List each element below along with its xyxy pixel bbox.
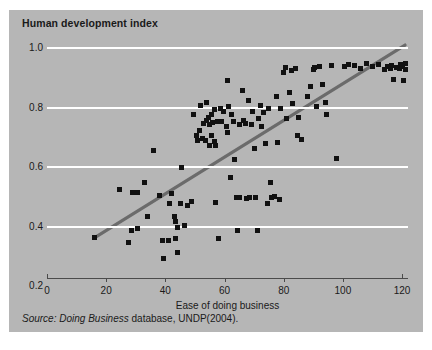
data-point bbox=[142, 180, 147, 185]
x-axis-tick bbox=[284, 278, 285, 282]
data-point bbox=[129, 228, 134, 233]
data-point bbox=[225, 78, 230, 83]
x-axis-label: Ease of doing business bbox=[47, 300, 408, 311]
data-point bbox=[284, 116, 289, 121]
data-point bbox=[283, 65, 288, 70]
data-point bbox=[249, 122, 254, 127]
x-axis-tick bbox=[343, 278, 344, 282]
data-point bbox=[258, 103, 263, 108]
data-point bbox=[401, 78, 406, 83]
data-point bbox=[287, 90, 292, 95]
data-point bbox=[169, 191, 174, 196]
data-point bbox=[261, 110, 266, 115]
source-note: Source: Doing Business database, UNDP(20… bbox=[22, 313, 238, 324]
x-axis-tick bbox=[165, 278, 166, 282]
data-point bbox=[247, 195, 252, 200]
data-point bbox=[256, 116, 261, 121]
data-point bbox=[175, 250, 180, 255]
data-point bbox=[259, 124, 264, 129]
data-point bbox=[263, 141, 268, 146]
data-point bbox=[403, 61, 408, 66]
data-point bbox=[232, 157, 237, 162]
data-point bbox=[250, 109, 255, 114]
x-axis-tick bbox=[106, 278, 107, 282]
data-point bbox=[213, 200, 218, 205]
data-point bbox=[376, 62, 381, 67]
x-axis-tick-label: 60 bbox=[219, 285, 230, 296]
gridline bbox=[47, 166, 408, 168]
data-point bbox=[281, 70, 286, 75]
data-point bbox=[160, 238, 165, 243]
data-point bbox=[314, 104, 319, 109]
data-point bbox=[189, 199, 194, 204]
data-point bbox=[240, 88, 245, 93]
data-point bbox=[198, 103, 203, 108]
data-point bbox=[308, 84, 313, 89]
data-point bbox=[157, 193, 162, 198]
data-point bbox=[346, 62, 351, 67]
data-point bbox=[299, 137, 304, 142]
figure-container: Human development index 0.20.40.60.81.0 … bbox=[0, 0, 432, 350]
data-point bbox=[224, 124, 229, 129]
data-point bbox=[334, 156, 339, 161]
data-point bbox=[364, 61, 369, 66]
source-note-italic: Source: Doing Business bbox=[22, 313, 129, 324]
data-point bbox=[229, 112, 234, 117]
data-point bbox=[173, 219, 178, 224]
data-point bbox=[265, 201, 270, 206]
data-point bbox=[178, 201, 183, 206]
data-point bbox=[277, 197, 282, 202]
source-note-roman: database, UNDP(2004). bbox=[129, 313, 239, 324]
data-point bbox=[323, 100, 328, 105]
y-axis-tick-label: 1.0 bbox=[29, 43, 43, 53]
data-point bbox=[212, 107, 217, 112]
data-point bbox=[274, 94, 279, 99]
data-point bbox=[191, 112, 196, 117]
data-point bbox=[370, 64, 375, 69]
x-axis-line bbox=[47, 278, 408, 279]
x-axis-tick-label: 120 bbox=[394, 285, 411, 296]
data-point bbox=[266, 106, 271, 111]
data-point bbox=[290, 101, 295, 106]
data-point bbox=[324, 112, 329, 117]
y-axis-tick-labels: 0.20.40.60.81.0 bbox=[14, 40, 43, 286]
x-axis-tick-label: 0 bbox=[44, 285, 50, 296]
data-point bbox=[320, 82, 325, 87]
data-point bbox=[175, 225, 180, 230]
x-axis-tick bbox=[47, 274, 48, 278]
data-point bbox=[167, 201, 172, 206]
data-point bbox=[391, 77, 396, 82]
data-point bbox=[403, 67, 408, 72]
x-axis-tick-label: 20 bbox=[101, 285, 112, 296]
data-point bbox=[243, 121, 248, 126]
data-point bbox=[278, 106, 283, 111]
x-axis-tick-label: 100 bbox=[335, 285, 352, 296]
data-point bbox=[237, 195, 242, 200]
data-point bbox=[216, 236, 221, 241]
data-point bbox=[179, 165, 184, 170]
data-point bbox=[358, 66, 363, 71]
data-point bbox=[161, 256, 166, 261]
x-axis-tick-label: 80 bbox=[278, 285, 289, 296]
data-point bbox=[92, 235, 97, 240]
data-point bbox=[268, 180, 273, 185]
data-point bbox=[182, 223, 187, 228]
data-point bbox=[253, 195, 258, 200]
data-point bbox=[221, 109, 226, 114]
plot-area bbox=[47, 40, 408, 286]
data-point bbox=[213, 143, 218, 148]
data-point bbox=[231, 119, 236, 124]
data-point bbox=[255, 228, 260, 233]
data-point bbox=[166, 238, 171, 243]
data-point bbox=[352, 63, 357, 68]
gridline bbox=[47, 47, 408, 49]
data-point bbox=[225, 130, 230, 135]
data-point bbox=[204, 100, 209, 105]
y-axis-tick-label: 0.4 bbox=[29, 222, 43, 232]
data-point bbox=[252, 146, 257, 151]
data-point bbox=[197, 128, 202, 133]
data-point bbox=[173, 236, 178, 241]
data-point bbox=[305, 94, 310, 99]
data-point bbox=[329, 63, 334, 68]
data-point bbox=[317, 64, 322, 69]
